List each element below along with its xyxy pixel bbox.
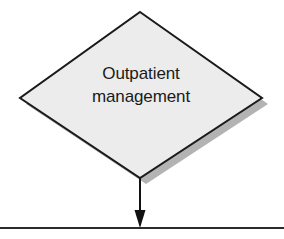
- connector-arrowhead-icon: [135, 210, 146, 228]
- flowchart-svg: [0, 0, 284, 239]
- decision-node-outpatient-management[interactable]: [20, 12, 262, 178]
- diagram-canvas: Outpatient management: [0, 0, 284, 239]
